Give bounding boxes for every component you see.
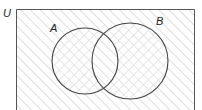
- universe-label: U: [3, 7, 11, 19]
- set-a-label: A: [49, 22, 57, 34]
- venn-diagram: U A B: [0, 0, 202, 110]
- set-b-label: B: [156, 15, 163, 27]
- symmetric-difference-region: [0, 0, 202, 110]
